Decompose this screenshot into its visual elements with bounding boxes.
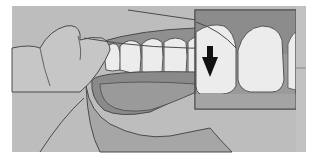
inset-tooth-edge — [288, 32, 296, 90]
right-edge — [296, 6, 306, 152]
closeup-inset — [195, 10, 296, 109]
flossing-illustration — [0, 0, 314, 155]
inset-tooth-right — [238, 26, 284, 92]
